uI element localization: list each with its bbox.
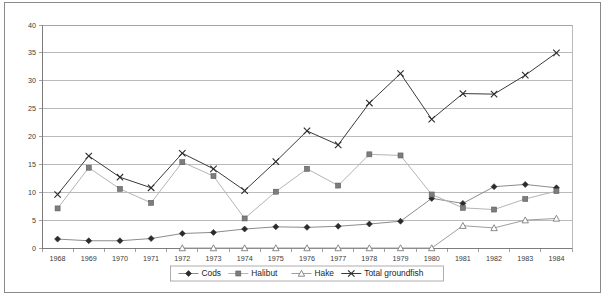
data-point-marker <box>491 184 497 190</box>
data-point-marker <box>336 183 341 188</box>
y-tick-label: 30 <box>28 76 36 85</box>
y-tick-label: 10 <box>28 188 36 197</box>
data-point-marker <box>241 187 247 193</box>
x-tick-label: 1970 <box>112 254 128 263</box>
data-point-marker <box>367 152 372 157</box>
x-tick-label: 1978 <box>361 254 377 263</box>
line-chart: 0510152025303540 19681969197019711972197… <box>5 3 602 294</box>
series-hake <box>179 215 560 250</box>
y-tick-label: 0 <box>32 244 36 253</box>
data-point-marker <box>273 158 279 164</box>
series-line <box>58 53 557 195</box>
x-tick-label: 1983 <box>517 254 533 263</box>
data-point-marker <box>304 128 310 134</box>
data-point-marker <box>86 238 92 244</box>
data-point-marker <box>149 200 154 205</box>
data-point-marker <box>179 231 185 237</box>
data-point-marker <box>86 165 91 170</box>
x-tick-label: 1981 <box>455 254 471 263</box>
chart-legend: CodsHalibutHakeTotal groundfish <box>170 266 443 281</box>
data-point-marker <box>305 166 310 171</box>
series-total-groundfish <box>54 50 559 198</box>
y-tick-label: 25 <box>28 104 36 113</box>
legend-label: Halibut <box>251 268 278 278</box>
x-axis-tick-labels: 1968196919701971197219731974197519761977… <box>50 254 565 263</box>
chart-frame: 0510152025303540 19681969197019711972197… <box>4 2 601 293</box>
data-point-marker <box>366 100 372 106</box>
data-point-marker <box>86 153 92 159</box>
data-point-marker <box>523 196 528 201</box>
y-tick-label: 35 <box>28 48 36 57</box>
data-point-marker <box>397 70 403 76</box>
data-point-marker <box>429 116 435 122</box>
x-tick-label: 1976 <box>299 254 315 263</box>
series-layer <box>54 50 559 251</box>
data-point-marker <box>492 207 497 212</box>
data-point-marker <box>236 271 241 276</box>
legend-label: Hake <box>314 268 334 278</box>
data-point-marker <box>522 72 528 78</box>
y-axis-tick-labels: 0510152025303540 <box>28 21 36 253</box>
data-point-marker <box>366 221 372 227</box>
data-point-marker <box>117 186 122 191</box>
data-point-marker <box>273 224 279 230</box>
x-tick-label: 1971 <box>143 254 159 263</box>
data-point-marker <box>148 185 154 191</box>
data-point-marker <box>335 142 341 148</box>
data-point-marker <box>180 160 185 165</box>
y-tick-label: 40 <box>28 21 36 30</box>
data-point-marker <box>55 236 61 242</box>
y-tick-label: 20 <box>28 132 36 141</box>
legend-label: Cods <box>201 268 221 278</box>
data-point-marker <box>273 189 278 194</box>
x-tick-label: 1974 <box>237 254 253 263</box>
series-line <box>58 154 557 218</box>
x-tick-label: 1979 <box>393 254 409 263</box>
data-point-marker <box>210 166 216 172</box>
series-halibut <box>55 152 559 221</box>
x-tick-label: 1968 <box>50 254 66 263</box>
data-point-marker <box>242 226 248 232</box>
x-tick-label: 1973 <box>205 254 221 263</box>
data-point-marker <box>148 236 154 242</box>
data-point-marker <box>117 238 123 244</box>
y-tick-label: 5 <box>32 216 36 225</box>
x-tick-label: 1980 <box>424 254 440 263</box>
data-point-marker <box>117 174 123 180</box>
x-tick-label: 1984 <box>548 254 564 263</box>
series-line <box>58 184 557 240</box>
data-point-marker <box>304 224 310 230</box>
x-tick-label: 1969 <box>81 254 97 263</box>
x-tick-label: 1977 <box>330 254 346 263</box>
data-point-marker <box>554 189 559 194</box>
data-point-marker <box>242 216 247 221</box>
x-tick-label: 1975 <box>268 254 284 263</box>
data-point-marker <box>429 192 434 197</box>
series-cods <box>55 181 560 243</box>
data-point-marker <box>335 223 341 229</box>
gridlines <box>39 25 572 248</box>
data-point-marker <box>55 206 60 211</box>
x-tick-label: 1972 <box>174 254 190 263</box>
data-point-marker <box>522 181 528 187</box>
legend-label: Total groundfish <box>364 268 423 278</box>
data-point-marker <box>211 174 216 179</box>
data-point-marker <box>210 229 216 235</box>
data-point-marker <box>460 205 465 210</box>
data-point-marker <box>179 150 185 156</box>
x-tick-label: 1982 <box>486 254 502 263</box>
data-point-marker <box>398 153 403 158</box>
y-tick-label: 15 <box>28 160 36 169</box>
